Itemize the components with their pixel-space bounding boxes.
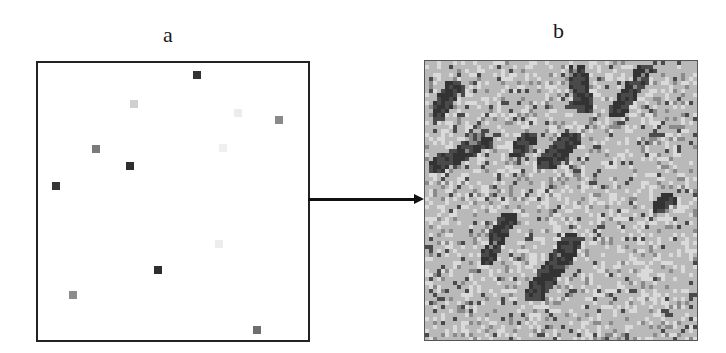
sample-point [234,109,242,117]
sample-point [130,100,138,108]
sample-point [154,266,162,274]
sample-point [92,145,100,153]
sample-point [126,162,134,170]
sample-point [253,326,261,334]
arrow-shaft [308,198,416,201]
sample-point [52,182,60,190]
sample-point [275,116,283,124]
sample-point [219,144,227,152]
panel-a-label: a [163,24,173,46]
field-raster [425,61,697,340]
panel-b-label: b [553,20,564,42]
simulated-field-panel [424,60,698,341]
sample-point [193,71,201,79]
sparse-points-panel [36,61,310,342]
sample-point [215,240,223,248]
sample-point [69,291,77,299]
arrow-right-icon [414,194,424,204]
